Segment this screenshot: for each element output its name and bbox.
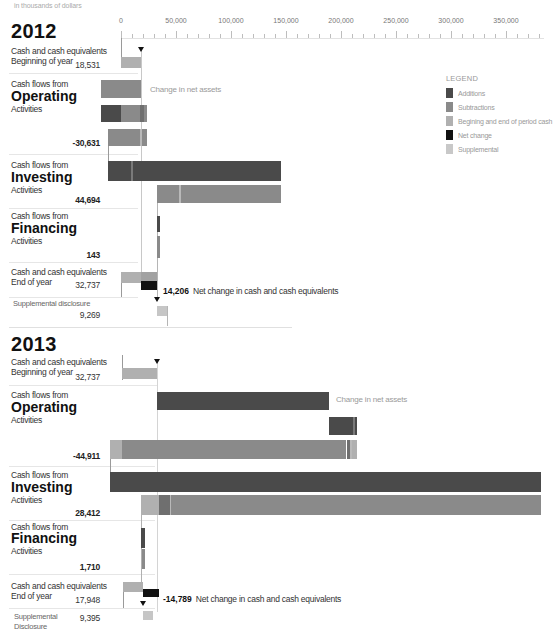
operating-title: Operating: [11, 89, 77, 104]
legend-item-subtractions: Subtractions: [446, 102, 552, 112]
investing-value: 28,412: [10, 508, 100, 518]
bar-segment: [122, 440, 346, 459]
bar-segment: [352, 440, 357, 459]
change-in-net-assets-label: Change in net assets: [336, 395, 407, 404]
investing-post: Activities: [11, 495, 42, 505]
minor-tick: [319, 34, 320, 38]
net-change-value: 14,206: [163, 286, 189, 296]
minor-tick: [198, 34, 199, 38]
minor-tick: [143, 34, 144, 38]
bar-segment: [101, 105, 121, 122]
divider: [9, 297, 138, 298]
legend-item-net-change: Net change: [446, 130, 552, 140]
year-divider: [9, 327, 292, 328]
bar-segment: [142, 549, 145, 569]
divider: [9, 608, 155, 609]
major-tick: [121, 31, 122, 38]
minor-tick: [297, 34, 298, 38]
bar-segment: [122, 368, 157, 379]
investing-title: Investing: [11, 170, 72, 185]
net-change-label: Net change in cash and cash equivalents: [196, 594, 341, 604]
connector-line: [167, 306, 168, 326]
divider: [9, 73, 138, 74]
tick-label: 100,000: [218, 17, 243, 24]
bar-segment: [110, 472, 541, 492]
triangle-marker-icon: [138, 47, 144, 52]
bar-segment: [143, 589, 159, 597]
bar-segment: [140, 129, 142, 146]
minor-tick: [528, 34, 529, 38]
divider: [9, 385, 157, 386]
major-tick: [286, 31, 287, 38]
end-value: 32,737: [10, 280, 100, 290]
tick-label: 350,000: [493, 17, 518, 24]
minor-tick: [264, 34, 265, 38]
bar-segment: [355, 417, 357, 435]
bar-segment: [179, 185, 180, 203]
minor-tick: [308, 34, 309, 38]
minor-tick: [418, 34, 419, 38]
major-tick: [341, 31, 342, 38]
bar-segment: [157, 216, 160, 232]
minor-tick: [220, 34, 221, 38]
minor-tick: [385, 34, 386, 38]
tick-label: 0: [119, 17, 123, 24]
minor-tick: [253, 34, 254, 38]
axis-baseline: [121, 38, 544, 39]
bar-segment: [171, 495, 541, 515]
legend: LEGEND Additions Subtractions Begining a…: [446, 74, 552, 154]
major-tick: [396, 31, 397, 38]
bar-segment: [329, 417, 353, 435]
bar-segment: [157, 236, 160, 258]
bar-segment: [141, 281, 157, 290]
financing-value: 143: [10, 250, 100, 260]
major-tick: [506, 31, 507, 38]
bar-segment: [141, 495, 159, 515]
minor-tick: [495, 34, 496, 38]
financing-value: 1,710: [10, 562, 100, 572]
bar-segment: [121, 105, 140, 122]
tick-label: 50,000: [165, 17, 186, 24]
major-tick: [176, 31, 177, 38]
minor-tick: [374, 34, 375, 38]
triangle-marker-icon: [140, 601, 146, 606]
bar-segment: [131, 161, 132, 181]
major-tick: [451, 31, 452, 38]
bar-segment: [121, 272, 141, 283]
minor-tick: [132, 34, 133, 38]
units-note: in thousands of dollars: [14, 2, 82, 9]
operating-value: -30,631: [10, 138, 100, 148]
begin-value: 32,737: [10, 372, 100, 382]
supplemental-value: 9,395: [10, 613, 100, 623]
bar-segment: [144, 105, 147, 122]
divider: [9, 520, 155, 521]
bar-segment: [159, 495, 170, 515]
divider: [9, 154, 138, 155]
minor-tick: [473, 34, 474, 38]
minor-tick: [209, 34, 210, 38]
end-value: 17,948: [10, 595, 100, 605]
operating-title: Operating: [11, 400, 77, 415]
net-change-label: Net change in cash and cash equivalents: [193, 286, 338, 296]
minor-tick: [363, 34, 364, 38]
minor-tick: [154, 34, 155, 38]
change-in-net-assets-label: Change in net assets: [150, 85, 221, 94]
legend-item-additions: Additions: [446, 88, 552, 98]
period-cash-swatch: [446, 116, 453, 126]
financing-title: Financing: [11, 221, 77, 236]
begin-value: 18,531: [10, 60, 100, 70]
investing-title: Investing: [11, 480, 72, 495]
minor-tick: [352, 34, 353, 38]
minor-tick: [330, 34, 331, 38]
supplemental-value: 9,269: [10, 310, 100, 320]
investing-value: 44,694: [10, 195, 100, 205]
minor-tick: [429, 34, 430, 38]
minor-tick: [165, 34, 166, 38]
bar-segment: [157, 392, 329, 410]
net-change-annotation: -14,789Net change in cash and cash equiv…: [163, 588, 341, 606]
legend-item-period-cash: Begining and end of period cash: [446, 116, 552, 126]
tick-label: 250,000: [383, 17, 408, 24]
bar-segment: [157, 185, 281, 203]
bar-segment: [121, 57, 141, 68]
tick-label: 200,000: [328, 17, 353, 24]
